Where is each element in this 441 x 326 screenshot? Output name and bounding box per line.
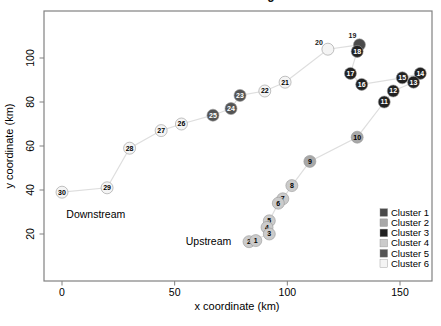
annotation-downstream: Downstream	[66, 208, 125, 220]
site-label-18: 18	[353, 48, 361, 55]
site-label-12: 12	[389, 87, 397, 94]
site-label-26: 26	[178, 120, 186, 127]
site-label-19: 19	[349, 32, 357, 39]
site-label-1: 1	[254, 237, 258, 244]
site-label-8: 8	[290, 182, 294, 189]
site-label-28: 28	[126, 145, 134, 152]
x-tick-label: 50	[169, 286, 181, 298]
site-label-10: 10	[353, 134, 361, 141]
legend-label-6: Cluster 6	[391, 258, 429, 269]
y-tick-label: 100	[24, 49, 36, 67]
y-tick-label: 40	[24, 184, 36, 196]
site-label-15: 15	[398, 74, 406, 81]
site-label-20: 20	[315, 39, 323, 46]
x-tick-label: 0	[59, 286, 65, 298]
y-tick-label: 60	[24, 140, 36, 152]
site-label-30: 30	[58, 189, 66, 196]
truncated-title: g	[267, 0, 274, 2]
figure: g05010015020406080100x coordinate (km)y …	[0, 0, 441, 326]
legend-swatch-1	[380, 209, 388, 217]
site-label-29: 29	[103, 184, 111, 191]
legend-swatch-5	[380, 250, 388, 258]
site-label-11: 11	[381, 98, 389, 105]
legend-swatch-3	[380, 229, 388, 237]
legend-swatch-2	[380, 219, 388, 227]
y-tick-label: 20	[24, 228, 36, 240]
x-tick-label: 100	[279, 286, 297, 298]
site-label-23: 23	[236, 92, 244, 99]
site-label-6: 6	[276, 200, 280, 207]
site-label-13: 13	[410, 79, 418, 86]
scatter-plot: g05010015020406080100x coordinate (km)y …	[0, 0, 441, 326]
legend-swatch-6	[380, 260, 388, 268]
x-tick-label: 150	[391, 286, 409, 298]
site-label-16: 16	[358, 81, 366, 88]
x-axis-title: x coordinate (km)	[195, 300, 280, 312]
site-label-24: 24	[227, 105, 235, 112]
site-label-3: 3	[267, 230, 271, 237]
site-label-17: 17	[347, 70, 355, 77]
annotation-upstream: Upstream	[186, 235, 232, 247]
site-label-27: 27	[157, 127, 165, 134]
site-marker-20	[322, 43, 334, 55]
y-axis-title: y coordinate (km)	[3, 104, 15, 189]
plot-frame	[44, 11, 432, 281]
site-label-21: 21	[281, 79, 289, 86]
legend-swatch-4	[380, 239, 388, 247]
site-label-25: 25	[209, 112, 217, 119]
y-tick-label: 80	[24, 96, 36, 108]
site-label-9: 9	[308, 158, 312, 165]
site-label-22: 22	[261, 87, 269, 94]
site-label-14: 14	[416, 70, 424, 77]
